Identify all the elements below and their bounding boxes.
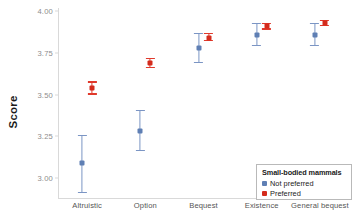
y-tick-label: 3.25 — [37, 132, 53, 141]
y-tick-label: 3.00 — [37, 174, 53, 183]
legend-item[interactable]: Preferred — [262, 189, 347, 198]
error-bar-cap-top — [88, 81, 97, 82]
legend-swatch-icon — [262, 181, 267, 186]
legend-item-label: Not preferred — [270, 179, 314, 188]
y-tick-label: 3.50 — [37, 90, 53, 99]
data-point-marker — [322, 21, 327, 26]
y-axis-title-label: Score — [7, 95, 19, 128]
x-tick-label: Altruistic — [72, 201, 102, 210]
x-tick-label: Bequest — [189, 201, 218, 210]
y-tick-label: 4.00 — [37, 7, 53, 16]
error-bar-cap-bottom — [88, 93, 97, 94]
legend-item[interactable]: Not preferred — [262, 179, 347, 188]
x-tick-label: General bequest — [291, 201, 349, 210]
y-axis-title: Score — [2, 0, 24, 223]
legend-title: Small-bodied mammals — [262, 168, 347, 177]
error-bar-cap-top — [204, 33, 213, 34]
x-tick-label: Existence — [245, 201, 279, 210]
data-point-marker — [90, 86, 95, 91]
error-bar-cap-bottom — [146, 67, 155, 68]
data-point-marker — [264, 24, 269, 29]
y-tick-label: 3.75 — [37, 49, 53, 58]
legend: Small-bodied mammals Not preferredPrefer… — [256, 164, 352, 200]
legend-item-label: Preferred — [270, 189, 301, 198]
legend-items: Not preferredPreferred — [262, 179, 347, 198]
legend-swatch-icon — [262, 191, 267, 196]
scatter-chart: Score 3.003.253.503.754.00 AltruisticOpt… — [0, 0, 357, 223]
error-bar-cap-top — [146, 58, 155, 59]
x-tick-label: Option — [134, 201, 157, 210]
data-point-marker — [148, 61, 153, 66]
data-point-marker — [206, 36, 211, 41]
